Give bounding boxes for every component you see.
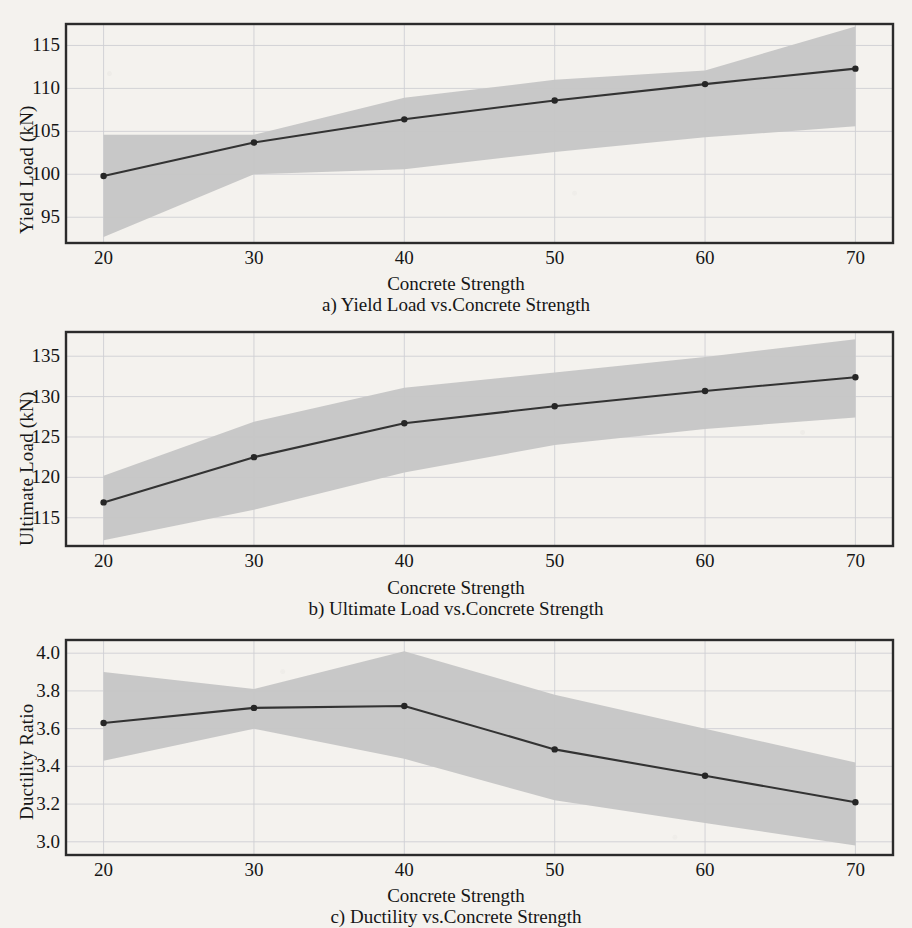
data-point <box>100 720 106 726</box>
x-axis-tick-label: 20 <box>94 859 113 881</box>
data-point <box>551 403 557 409</box>
x-axis-tick-label: 70 <box>846 859 865 881</box>
data-point <box>251 705 257 711</box>
x-axis-tick-label: 40 <box>395 550 414 572</box>
data-point <box>852 374 858 380</box>
x-axis-tick-label: 50 <box>545 859 564 881</box>
x-axis-tick-label: 60 <box>696 859 715 881</box>
panel-ultimate-load: Ultimate Load (kN) 115120125130135 20304… <box>0 306 912 612</box>
panel-ductility-ratio: Ductility Ratio 3.03.23.43.63.84.0 20304… <box>0 612 912 920</box>
data-point <box>401 420 407 426</box>
x-axis-tick-label: 30 <box>244 550 263 572</box>
x-axis-tick-label: 60 <box>696 247 715 269</box>
confidence-band <box>104 651 856 845</box>
data-point <box>852 799 858 805</box>
x-axis-tick-label: 50 <box>545 550 564 572</box>
data-point <box>401 116 407 122</box>
data-point <box>551 746 557 752</box>
data-point <box>551 97 557 103</box>
x-axis-tick-label: 30 <box>244 859 263 881</box>
caption-ductility-ratio: c) Ductility vs.Concrete Strength <box>0 906 912 928</box>
x-axis-tick-label: 40 <box>395 247 414 269</box>
data-point <box>852 65 858 71</box>
data-point <box>251 139 257 145</box>
x-axis-label-ductility-ratio: Concrete Strength <box>0 885 912 907</box>
data-point <box>702 81 708 87</box>
x-axis-tick-label: 20 <box>94 550 113 572</box>
panel-yield-load: Yield Load (kN) 95100105110115 203040506… <box>0 0 912 308</box>
x-axis-tick-label: 40 <box>395 859 414 881</box>
x-axis-label-yield-load: Concrete Strength <box>0 273 912 295</box>
confidence-band <box>104 339 856 540</box>
data-point <box>100 499 106 505</box>
data-point <box>702 773 708 779</box>
x-axis-tick-label: 30 <box>244 247 263 269</box>
x-axis-label-ultimate-load: Concrete Strength <box>0 577 912 599</box>
x-axis-tick-label: 70 <box>846 550 865 572</box>
data-point <box>702 388 708 394</box>
x-axis-tick-label: 50 <box>545 247 564 269</box>
x-axis-tick-label: 20 <box>94 247 113 269</box>
x-axis-tick-label: 70 <box>846 247 865 269</box>
data-point <box>401 703 407 709</box>
x-axis-tick-label: 60 <box>696 550 715 572</box>
data-point <box>251 454 257 460</box>
data-point <box>100 173 106 179</box>
